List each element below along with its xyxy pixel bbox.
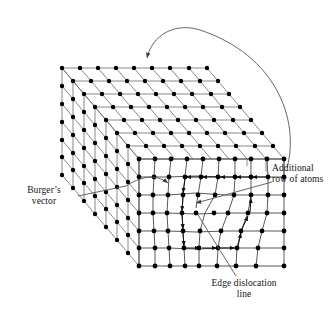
top-face-atoms [60,66,275,148]
edge-dislocation-figure [0,0,335,315]
annotation-leaders [78,28,290,276]
label-burgers-vector: Burger’s vector [12,185,76,207]
burgers-vector-leader-curve [126,177,168,186]
extra-half-plane [196,159,203,208]
front-face-atoms [137,175,287,269]
lattice-atoms [60,66,287,269]
additional-row-straight-arrow [196,182,272,203]
lattice-front-face [139,159,284,266]
label-edge-dislocation-line: Edge dislocation line [196,278,292,300]
front-face-row-lines [139,159,284,266]
label-additional-row-of-atoms: Additional row of atoms [272,163,323,185]
front-face-column-lines [139,159,284,266]
